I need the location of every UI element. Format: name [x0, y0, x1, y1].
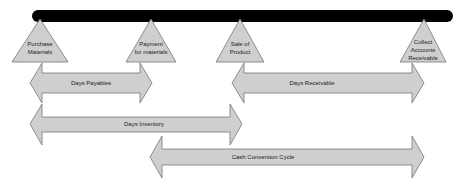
milestone-label-line: Product — [230, 49, 251, 55]
milestone-label-line: Receivable — [408, 55, 438, 61]
milestone-label-line: Collect — [414, 39, 433, 45]
arrow-days-inventory: Days Inventory — [30, 104, 242, 145]
arrow-label: Days Inventory — [124, 121, 164, 127]
milestone-label-line: Purchase — [27, 41, 53, 47]
milestone-label-line: for materials — [134, 49, 167, 55]
arrow-label: Days Receivable — [289, 80, 335, 86]
milestone-label-line: Sale of — [231, 41, 250, 47]
timeline-bar — [32, 10, 453, 22]
milestone-purchase-materials: Purchase Materials — [12, 19, 68, 62]
arrow-cash-conversion-cycle: Cash Conversion Cycle — [150, 136, 424, 178]
milestone-collect-accounts-receivable: Collect Accounts Receivable — [400, 19, 446, 62]
milestone-sale-of-product: Sale of Product — [216, 19, 264, 62]
milestone-label-line: Accounts — [411, 47, 436, 53]
milestone-payment-for-materials: Payment for materials — [126, 19, 176, 62]
arrow-days-payables: Days Payables — [30, 63, 152, 103]
milestone-label-line: Materials — [28, 49, 52, 55]
arrow-label: Days Payables — [71, 80, 111, 86]
arrow-days-receivable: Days Receivable — [232, 63, 424, 103]
milestone-label-line: Payment — [139, 41, 163, 47]
arrow-label: Cash Conversion Cycle — [232, 154, 295, 160]
cash-conversion-diagram: Purchase Materials Payment for materials… — [0, 0, 458, 187]
